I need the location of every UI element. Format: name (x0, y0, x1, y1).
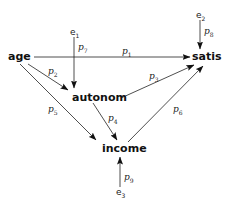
path-label-p6: p6 (173, 104, 183, 118)
path-label-p9: p9 (124, 172, 134, 186)
edge-p6 (128, 66, 203, 142)
node-age: age (8, 51, 31, 63)
path-label-p5: p5 (48, 104, 58, 118)
path-label-p8: p8 (204, 26, 214, 40)
node-income: income (102, 143, 147, 155)
path-diagram-edges (0, 0, 225, 210)
path-label-p2: p2 (48, 66, 58, 80)
error-e1: e1 (70, 27, 79, 41)
path-label-p7: p7 (78, 42, 88, 56)
path-label-p3: p3 (149, 71, 159, 85)
error-e2: e2 (196, 10, 205, 24)
path-label-p1: p1 (122, 46, 132, 60)
node-autonom: autonom (72, 92, 127, 104)
error-e3: e3 (116, 187, 125, 201)
node-satis: satis (192, 51, 222, 63)
path-label-p4: p4 (108, 113, 118, 127)
